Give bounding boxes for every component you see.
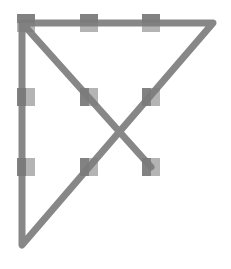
nine-dots-diagram (0, 0, 231, 269)
solution-path (22, 23, 213, 245)
solution-line (22, 23, 213, 245)
